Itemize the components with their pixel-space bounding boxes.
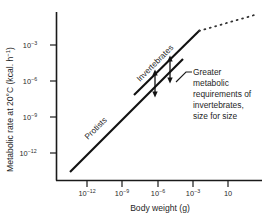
x-tick-label: 10−3 xyxy=(186,188,200,199)
y-axis-tick-labels: 10−3 10−6 10−9 10−12 xyxy=(19,40,37,159)
x-tick-label: 10−9 xyxy=(115,188,129,199)
annotation-line: invertebrates, xyxy=(193,100,244,110)
series-line-protists xyxy=(70,59,183,172)
y-axis-title: Metabolic rate at 20°C (kcal. h−1) xyxy=(5,47,15,172)
x-axis-tick-labels: 10−12 10−9 10−6 10−3 10 xyxy=(78,188,232,199)
chart-canvas: 10−3 10−6 10−9 10−12 10−12 10−9 10−6 10−… xyxy=(0,0,270,217)
y-tick-label: 10−9 xyxy=(23,112,37,123)
annotation-line: metabolic xyxy=(193,78,229,88)
x-tick-label: 10 xyxy=(224,189,232,198)
series-line-invertebrates xyxy=(134,30,200,95)
x-axis-ticks xyxy=(87,181,228,188)
annotation-line: size for size xyxy=(193,111,238,121)
metabolic-rate-chart: 10−3 10−6 10−9 10−12 10−12 10−9 10−6 10−… xyxy=(0,0,270,217)
x-axis-title: Body weight (g) xyxy=(130,203,190,213)
x-tick-label: 10−6 xyxy=(151,188,165,199)
annotation-line: Greater xyxy=(193,67,222,77)
series-line-extrapolation xyxy=(199,14,258,31)
greater-metabolic-note: Greater metabolic requirements of invert… xyxy=(193,67,252,121)
y-tick-label: 10−6 xyxy=(23,76,37,87)
annotation-leader-line xyxy=(176,72,192,82)
y-tick-label: 10−12 xyxy=(19,148,36,159)
x-tick-label: 10−12 xyxy=(78,188,95,199)
y-tick-label: 10−3 xyxy=(23,40,37,51)
annotation-line: requirements of xyxy=(193,89,252,99)
y-axis-ticks xyxy=(50,45,57,153)
